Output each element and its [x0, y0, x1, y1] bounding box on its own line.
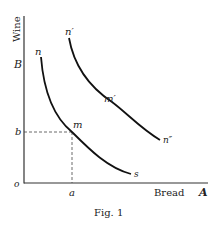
figure-caption: Fig. 1: [94, 207, 123, 218]
curve-label-s: s: [134, 169, 139, 179]
point-label-a: a: [69, 187, 75, 198]
curve-n-prime: [69, 38, 160, 140]
curve-label-n-double-prime: n″: [163, 135, 173, 145]
x-axis-end-label: A: [198, 186, 208, 199]
x-axis-label: Bread: [154, 187, 185, 198]
indifference-diagram: Wine B b o a Bread A n m s n′ m′ n″ Fig.…: [0, 0, 222, 225]
curve-label-m-prime: m′: [104, 93, 116, 104]
y-axis-label: Wine: [11, 16, 22, 42]
curve-n-s: [41, 57, 131, 174]
y-axis-top-label: B: [13, 58, 22, 71]
curve-label-n: n: [35, 46, 41, 57]
curve-label-m: m: [73, 119, 82, 130]
point-label-b: b: [15, 126, 21, 137]
curve-label-n-prime: n′: [65, 26, 74, 37]
origin-label: o: [14, 179, 20, 189]
